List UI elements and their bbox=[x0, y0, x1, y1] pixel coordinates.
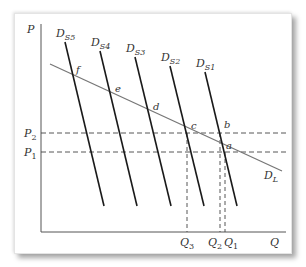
x-axis-label: Q bbox=[270, 236, 279, 249]
y-axis-label: P bbox=[26, 23, 35, 36]
q1-label: Q1 bbox=[224, 236, 238, 251]
point-c-label: c bbox=[191, 120, 197, 131]
p1-label: P1 bbox=[23, 146, 37, 161]
demand-s2-label: DS2 bbox=[160, 51, 180, 66]
point-d-label: d bbox=[153, 101, 159, 112]
long-run-demand-line bbox=[50, 64, 282, 171]
demand-s1-label: DS1 bbox=[195, 57, 215, 72]
point-e-label: e bbox=[115, 83, 121, 94]
demand-s5-label: DS5 bbox=[55, 27, 75, 42]
demand-s3-line bbox=[135, 57, 171, 206]
p2-label: P2 bbox=[23, 127, 37, 142]
q2-label: Q2 bbox=[208, 236, 222, 251]
demand-s5-line bbox=[65, 42, 104, 206]
point-a-label: a bbox=[226, 140, 232, 151]
demand-diagram: P Q P2 P1 Q3 Q2 Q1 DS5 DS4 DS3 DS2 DS1 D… bbox=[0, 0, 306, 267]
demand-s1-line bbox=[205, 72, 237, 206]
demand-s4-label: DS4 bbox=[90, 36, 110, 51]
point-b-label: b bbox=[224, 119, 230, 130]
demand-s3-label: DS3 bbox=[125, 42, 145, 57]
long-run-demand-label: DL bbox=[263, 169, 278, 184]
point-f-label: f bbox=[75, 64, 82, 75]
demand-s4-line bbox=[100, 51, 137, 206]
q3-label: Q3 bbox=[180, 236, 194, 251]
